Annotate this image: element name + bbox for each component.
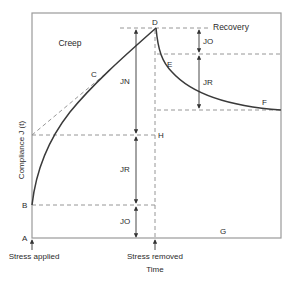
y-axis-label: Compliance J (t) — [17, 121, 26, 180]
point-f-label: F — [262, 98, 267, 107]
event-arrows — [32, 240, 155, 250]
creep-recovery-diagram: Creep Recovery A B C D E F G H JN JR JO … — [0, 0, 291, 281]
jr-recovery-label: JR — [203, 78, 213, 87]
point-e-label: E — [167, 60, 172, 69]
point-b-label: B — [22, 201, 27, 210]
jo-recovery-label: JO — [203, 37, 213, 46]
point-d-label: D — [152, 18, 158, 27]
jr-creep-label: JR — [120, 165, 130, 174]
jn-label: JN — [120, 77, 130, 86]
point-a-label: A — [22, 234, 28, 243]
stress-applied-label: Stress applied — [9, 252, 60, 261]
jo-creep-label: JO — [120, 217, 130, 226]
creep-label: Creep — [58, 38, 81, 48]
point-c-label: C — [91, 70, 97, 79]
tangent-line — [32, 70, 110, 135]
creep-curve — [32, 28, 156, 205]
point-g-label: G — [220, 227, 226, 236]
x-axis-label: Time — [146, 265, 164, 274]
stress-removed-label: Stress removed — [127, 252, 183, 261]
recovery-label: Recovery — [213, 22, 250, 32]
guide-lines — [32, 28, 281, 238]
point-h-label: H — [158, 131, 164, 140]
